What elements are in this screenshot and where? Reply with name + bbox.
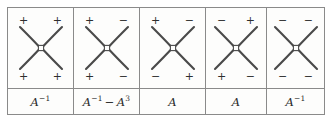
diagram-cell-4: − + + −: [206, 8, 267, 88]
figure-container: + + + + + − +: [0, 0, 334, 123]
coefficient-label-1: A−1: [31, 95, 51, 109]
crossing-coefficient-table: + + + + + − +: [7, 7, 325, 115]
coefficient-base-2: A: [117, 95, 126, 109]
coefficient-operator: −: [103, 95, 117, 109]
coefficient-label-5: A−1: [286, 95, 306, 109]
coefficient-label-2: A−1−A3: [83, 95, 130, 109]
sign-top-left: +: [151, 15, 160, 26]
diagram-cell-1: + + + +: [8, 8, 74, 88]
sign-bottom-left: +: [19, 71, 28, 82]
coefficient-exponent: −1: [91, 94, 102, 103]
coefficient-cell-3: A: [140, 89, 206, 114]
sign-top-right: −: [185, 15, 194, 26]
sign-bottom-right: +: [185, 71, 194, 82]
sign-bottom-left: +: [85, 71, 94, 82]
crossing-diagram-4: − + + −: [206, 8, 266, 88]
coefficient-base: A: [286, 95, 295, 109]
sign-bottom-right: +: [53, 71, 62, 82]
coefficient-cell-4: A: [206, 89, 267, 114]
sign-bottom-right: −: [119, 71, 128, 82]
sign-bottom-left: +: [217, 71, 226, 82]
sign-top-right: +: [53, 15, 62, 26]
coefficient-base: A: [232, 95, 241, 109]
crossing-icon: [148, 23, 198, 73]
sign-top-left: +: [19, 15, 28, 26]
coefficient-exponent: −1: [294, 94, 305, 103]
coefficient-label-4: A: [232, 95, 241, 109]
coefficient-exponent-2: 3: [125, 94, 130, 103]
coefficient-base: A: [31, 95, 40, 109]
sign-top-right: +: [246, 15, 255, 26]
sign-top-left: −: [278, 15, 287, 26]
crossing-diagram-3: + − − +: [140, 8, 205, 88]
coefficient-row: A−1 A−1−A3 A A A−1: [8, 89, 324, 114]
diagram-cell-5: − − − −: [267, 8, 324, 88]
crossing-diagram-5: − − − −: [267, 8, 324, 88]
sign-top-left: +: [85, 15, 94, 26]
diagram-cell-3: + − − +: [140, 8, 206, 88]
coefficient-label-3: A: [168, 95, 177, 109]
crossing-icon: [211, 23, 261, 73]
coefficient-exponent: −1: [39, 94, 50, 103]
coefficient-cell-1: A−1: [8, 89, 74, 114]
crossing-icon: [271, 23, 321, 73]
sign-bottom-right: −: [246, 71, 255, 82]
sign-bottom-left: −: [151, 71, 160, 82]
diagram-cell-2: + − + −: [74, 8, 140, 88]
sign-top-left: −: [217, 15, 226, 26]
sign-bottom-left: −: [278, 71, 287, 82]
sign-top-right: −: [304, 15, 313, 26]
crossing-diagram-1: + + + +: [8, 8, 73, 88]
crossing-icon: [16, 23, 66, 73]
sign-bottom-right: −: [304, 71, 313, 82]
sign-top-right: −: [119, 15, 128, 26]
coefficient-base: A: [168, 95, 177, 109]
diagram-row: + + + + + − +: [8, 8, 324, 89]
coefficient-cell-2: A−1−A3: [74, 89, 140, 114]
coefficient-cell-5: A−1: [267, 89, 324, 114]
crossing-diagram-2: + − + −: [74, 8, 139, 88]
crossing-icon: [82, 23, 132, 73]
